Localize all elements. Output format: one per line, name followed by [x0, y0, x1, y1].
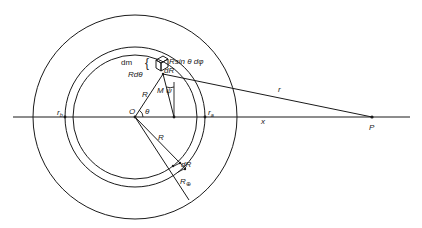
label-Rsin-theta-dphi: Rsin θ dφ — [169, 57, 203, 66]
label-R-earth: R⊕ — [180, 177, 191, 187]
line-M-to-axis — [163, 74, 174, 117]
point-r-b — [64, 116, 67, 119]
shell-diagram: dm { Rdθ Rsin θ dφ dR R M ψ O θ rb ra x … — [0, 0, 422, 228]
label-O: O — [129, 107, 135, 116]
label-R-upper: R — [142, 90, 148, 99]
label-dR-top: dR — [164, 66, 174, 75]
label-psi: ψ — [166, 86, 172, 95]
label-R-lower: R — [158, 133, 164, 142]
label-dR-lower: dR — [181, 160, 191, 169]
center-point-O — [134, 116, 137, 119]
label-P: P — [369, 123, 375, 132]
point-P — [370, 115, 373, 118]
foot-point — [173, 116, 176, 119]
label-theta: θ — [145, 107, 150, 116]
label-r: r — [278, 85, 281, 94]
label-brace: { — [145, 56, 149, 70]
theta-angle-arc — [139, 110, 143, 117]
label-M: M — [157, 86, 164, 95]
label-dm: dm — [121, 58, 132, 67]
label-r-a: ra — [208, 108, 214, 118]
point-r-a — [204, 116, 207, 119]
label-Rdtheta: Rdθ — [128, 70, 143, 79]
label-x: x — [260, 117, 266, 126]
distance-line-r — [163, 74, 372, 117]
label-r-b: rb — [57, 108, 63, 118]
